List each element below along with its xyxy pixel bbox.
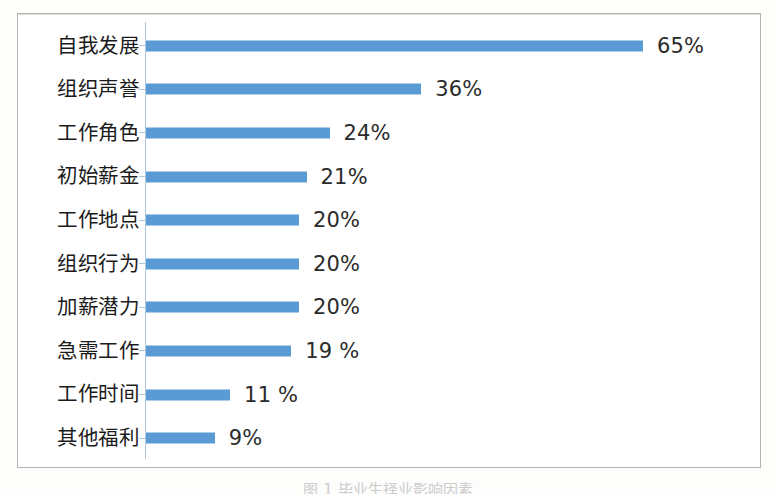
bar-value-label: 20%	[313, 295, 360, 319]
category-label: 工作角色	[18, 123, 139, 144]
category-label: 组织行为	[18, 254, 139, 275]
category-label: 急需工作	[18, 341, 139, 362]
bar-container: 19 %	[146, 329, 760, 373]
axis-tick	[139, 394, 145, 395]
bar-container: 20%	[146, 286, 760, 330]
bar-value-label: 19 %	[305, 339, 359, 363]
figure-frame: 自我发展65%组织声誉36%工作角色24%初始薪金21%工作地点20%组织行为2…	[17, 13, 761, 468]
category-label: 加薪潜力	[18, 297, 139, 318]
bar-chart-plot-area: 自我发展65%组织声誉36%工作角色24%初始薪金21%工作地点20%组织行为2…	[18, 14, 760, 467]
bar-value-label: 36%	[435, 77, 482, 101]
bar-container: 11 %	[146, 373, 760, 417]
axis-tick	[139, 132, 145, 133]
bar-container: 21%	[146, 155, 760, 199]
bar	[146, 389, 230, 400]
axis-tick	[139, 176, 145, 177]
axis-tick	[139, 45, 145, 46]
bar	[146, 84, 421, 95]
bar-row: 组织行为20%	[18, 242, 760, 286]
scanned-page: 自我发展65%组织声誉36%工作角色24%初始薪金21%工作地点20%组织行为2…	[0, 0, 776, 494]
bar-row: 初始薪金21%	[18, 155, 760, 199]
bar-container: 36%	[146, 68, 760, 112]
bar-row: 工作地点20%	[18, 198, 760, 242]
bar-row: 自我发展65%	[18, 24, 760, 68]
bar-value-label: 21%	[321, 165, 368, 189]
bar-value-label: 24%	[344, 121, 391, 145]
category-label: 工作时间	[18, 384, 139, 405]
bar-container: 20%	[146, 198, 760, 242]
category-label: 工作地点	[18, 210, 139, 231]
axis-tick	[139, 263, 145, 264]
category-label: 组织声誉	[18, 79, 139, 100]
category-label: 其他福利	[18, 428, 139, 449]
bar-row: 急需工作19 %	[18, 329, 760, 373]
axis-tick	[139, 220, 145, 221]
bar-row: 工作角色24%	[18, 111, 760, 155]
bar-value-label: 20%	[313, 208, 360, 232]
bar	[146, 433, 215, 444]
bar	[146, 127, 330, 138]
bar	[146, 171, 307, 182]
bar-row: 组织声誉36%	[18, 68, 760, 112]
bar-value-label: 20%	[313, 252, 360, 276]
bar-container: 9%	[146, 416, 760, 460]
axis-tick	[139, 307, 145, 308]
bar-row: 其他福利9%	[18, 416, 760, 460]
bar-container: 20%	[146, 242, 760, 286]
bar	[146, 345, 291, 356]
axis-tick	[139, 438, 145, 439]
axis-tick	[139, 89, 145, 90]
bar-container: 24%	[146, 111, 760, 155]
bar	[146, 215, 299, 226]
bar	[146, 40, 643, 51]
bar-row: 工作时间11 %	[18, 373, 760, 417]
category-label: 初始薪金	[18, 166, 139, 187]
bar	[146, 302, 299, 313]
bar-container: 65%	[146, 24, 760, 68]
bar-value-label: 9%	[229, 426, 263, 450]
bar	[146, 258, 299, 269]
bar-value-label: 65%	[657, 34, 704, 58]
axis-tick	[139, 350, 145, 351]
bar-row: 加薪潜力20%	[18, 286, 760, 330]
category-label: 自我发展	[18, 36, 139, 57]
figure-caption: 图 1 毕业生择业影响因素	[0, 478, 776, 494]
bar-value-label: 11 %	[244, 383, 298, 407]
